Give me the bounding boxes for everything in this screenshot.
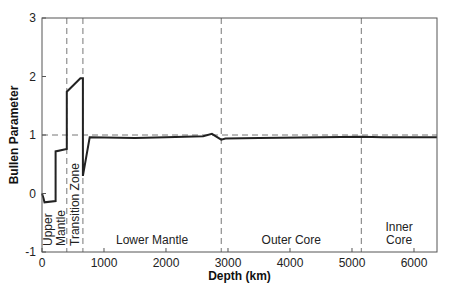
y-tick-label: 3 [29, 11, 36, 25]
region-label: Mantle [54, 210, 68, 246]
x-tick-label: 3000 [215, 256, 242, 270]
region-labels: UpperMantleTransition ZoneLower MantleOu… [41, 163, 413, 247]
x-tick-label: 6000 [401, 256, 428, 270]
region-label: Core [386, 233, 412, 247]
x-axis: 0100020003000400050006000 [39, 248, 428, 270]
x-tick-label: 2000 [153, 256, 180, 270]
region-label: Lower Mantle [116, 233, 188, 247]
x-tick-label: 4000 [277, 256, 304, 270]
y-tick-label: -1 [25, 245, 36, 259]
region-label: Outer Core [262, 233, 322, 247]
y-tick-label: 2 [29, 70, 36, 84]
x-tick-label: 0 [39, 256, 46, 270]
region-label: Transition Zone [68, 163, 82, 246]
x-tick-label: 5000 [339, 256, 366, 270]
x-axis-title: Depth (km) [208, 269, 271, 283]
x-tick-label: 1000 [91, 256, 118, 270]
region-label: Upper [41, 213, 55, 246]
y-tick-label: 1 [29, 128, 36, 142]
region-label: Inner [385, 220, 412, 234]
bullen-parameter-chart: 0100020003000400050006000 -10123 UpperMa… [0, 0, 452, 295]
bullen-parameter-series [42, 78, 437, 202]
y-axis-title: Bullen Parameter [7, 85, 21, 184]
y-tick-label: 0 [29, 187, 36, 201]
